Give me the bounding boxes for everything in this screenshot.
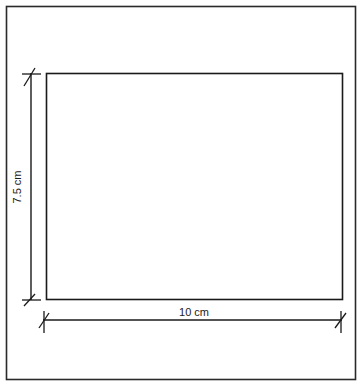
height-dimension (22, 68, 41, 306)
rectangle-shape (47, 74, 343, 300)
outer-frame (7, 7, 356, 380)
diagram-canvas: 10 cm 7.5 cm (0, 0, 362, 388)
width-label: 10 cm (179, 306, 209, 318)
height-label: 7.5 cm (11, 170, 23, 203)
height-tick-top (24, 68, 35, 86)
